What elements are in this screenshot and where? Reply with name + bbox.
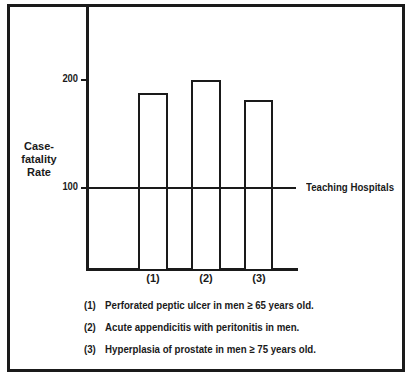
bar-2 (191, 80, 221, 269)
x-tick-label-2: (2) (191, 272, 221, 284)
reference-line-label: Teaching Hospitals (306, 181, 394, 193)
legend-text: Perforated peptic ulcer in men ≥ 65 year… (105, 299, 314, 311)
x-tick-label-3: (3) (244, 272, 274, 284)
legend-text: Hyperplasia of prostate in men ≥ 75 year… (105, 343, 316, 355)
y-tick-label-200: 200 (53, 72, 79, 84)
y-axis-label-line: Case- (14, 140, 64, 153)
y-axis (86, 7, 89, 271)
y-axis-label: Case- fatality Rate (14, 140, 64, 179)
bar-1 (138, 93, 168, 269)
legend-key: (2) (84, 316, 105, 338)
y-tick-200 (81, 79, 87, 81)
bar-3 (244, 100, 273, 269)
legend-key: (1) (84, 294, 105, 316)
reference-line-teaching-hospitals (86, 187, 296, 189)
legend-item: (1)Perforated peptic ulcer in men ≥ 65 y… (84, 294, 316, 316)
legend-text: Acute appendicitis with peritonitis in m… (105, 321, 299, 333)
legend-key: (3) (84, 338, 105, 360)
y-axis-label-line: fatality (14, 153, 64, 166)
x-tick-label-1: (1) (138, 272, 168, 284)
y-tick-label-100: 100 (53, 180, 79, 192)
legend-item: (2)Acute appendicitis with peritonitis i… (84, 316, 316, 338)
y-axis-label-line: Rate (14, 166, 64, 179)
legend: (1)Perforated peptic ulcer in men ≥ 65 y… (84, 294, 348, 360)
legend-item: (3)Hyperplasia of prostate in men ≥ 75 y… (84, 338, 316, 360)
